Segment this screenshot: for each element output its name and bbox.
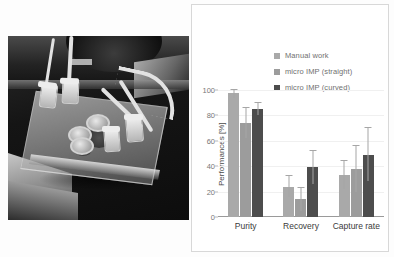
error-bar-cap-top <box>353 145 360 146</box>
error-bar <box>288 176 289 196</box>
bar-group-capture-rate: Capture rate <box>329 90 384 217</box>
bar-group-purity: Purity <box>218 90 273 217</box>
error-bar <box>356 146 357 192</box>
instrument-slot <box>70 59 92 65</box>
bar-purity-series-0[interactable] <box>228 93 239 217</box>
x-axis-label-purity: Purity <box>235 221 257 231</box>
error-bar-cap-top <box>285 175 292 176</box>
legend-item-0[interactable]: Manual work <box>274 49 352 62</box>
bar-column <box>339 90 350 217</box>
bar-column <box>363 90 374 217</box>
y-axis-tick-label: 60 <box>207 136 215 145</box>
error-bar <box>300 188 301 211</box>
legend-label: micro IMP (straight) <box>285 67 352 76</box>
bar-group-recovery: Recovery <box>273 90 328 217</box>
error-bar <box>245 108 246 138</box>
y-axis-tick-label: 100 <box>202 86 215 95</box>
bar-column <box>295 90 306 217</box>
error-bar-cap-top <box>309 150 316 151</box>
error-bar-cap-top <box>254 102 261 103</box>
performance-bar-chart: Manual workmicro IMP (straight)micro IMP… <box>191 4 389 252</box>
error-bar-cap-top <box>365 127 372 128</box>
y-axis-tick-label: 40 <box>207 162 215 171</box>
legend-item-1[interactable]: micro IMP (straight) <box>274 65 352 78</box>
y-axis-tick-label: 80 <box>207 111 215 120</box>
x-axis-label-recovery: Recovery <box>283 221 319 231</box>
plot-area: Performances [%] 020406080100 PurityReco… <box>218 90 384 217</box>
error-bar <box>312 151 313 184</box>
legend-swatch-icon <box>274 69 280 75</box>
y-axis-tick-label: 20 <box>207 187 215 196</box>
microfluidic-chip-device-photo <box>8 36 189 220</box>
bar-column <box>252 90 263 217</box>
error-bar <box>344 161 345 189</box>
error-bar <box>257 103 258 116</box>
bar-column <box>240 90 251 217</box>
legend-label: Manual work <box>285 51 329 60</box>
connector-cap-2 <box>60 78 79 85</box>
error-bar <box>233 90 234 98</box>
chip-well-3 <box>70 137 94 155</box>
legend-swatch-icon <box>274 53 280 59</box>
error-bar <box>368 128 369 181</box>
error-bar-cap-top <box>230 89 237 90</box>
bar-column <box>228 90 239 217</box>
x-axis-label-capture-rate: Capture rate <box>333 221 380 231</box>
bar-column <box>307 90 318 217</box>
bar-purity-series-2[interactable] <box>252 109 263 217</box>
bar-column <box>351 90 362 217</box>
connector-cap-3 <box>102 126 120 132</box>
bar-column <box>283 90 294 217</box>
error-bar-cap-top <box>297 187 304 188</box>
error-bar-cap-top <box>341 160 348 161</box>
figure-page: Manual workmicro IMP (straight)micro IMP… <box>0 0 394 257</box>
error-bar-cap-top <box>242 107 249 108</box>
connector-cap-4 <box>124 114 143 120</box>
